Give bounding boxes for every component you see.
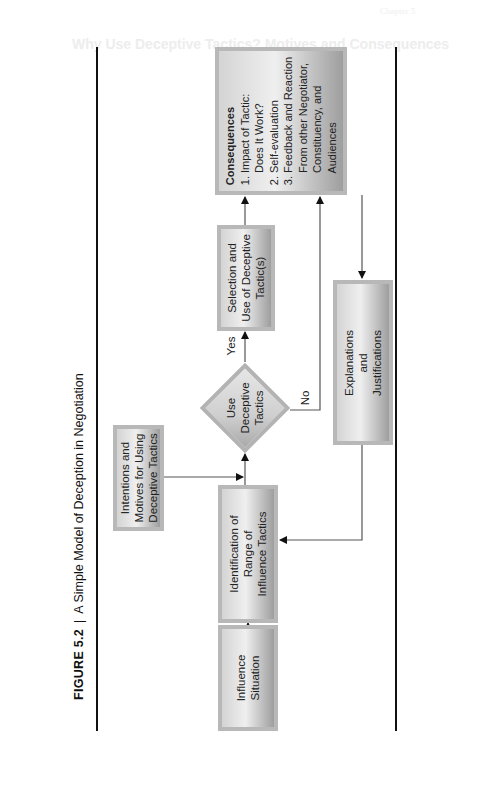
consequences-title: Consequences	[223, 57, 238, 185]
consequence-item: From other Negotiator,	[296, 57, 311, 185]
consequence-item: 1. Impact of Tactic:	[238, 57, 253, 185]
node-selection: Selection and Use of Deceptive Tactic(s)	[217, 225, 275, 331]
node-consequences: Consequences 1. Impact of Tactic: Does I…	[215, 47, 347, 195]
node-consequences-label: Consequences 1. Impact of Tactic: Does I…	[223, 57, 339, 185]
label-line: Influence Tactics	[255, 512, 269, 597]
node-influence-situation: Influence Situation	[218, 625, 278, 731]
label-line: Motives for Using	[132, 433, 146, 522]
node-explanations: Explanations and Justifications	[333, 280, 393, 445]
node-explanations-label: Explanations and Justifications	[342, 330, 384, 396]
label-line: Tactic(s)	[253, 234, 267, 322]
label-line: Tactics	[252, 382, 266, 433]
label-line: Use of Deceptive	[239, 234, 253, 322]
label-line: Intentions and	[118, 433, 132, 522]
label-line: Deceptive Tactics	[146, 433, 160, 522]
yes-label: Yes	[225, 337, 237, 356]
label-line: Identification of	[227, 512, 241, 597]
node-intentions: Intentions and Motives for Using Decepti…	[113, 425, 164, 531]
label-line: Range of	[241, 512, 255, 597]
label-line: and	[356, 330, 370, 396]
node-identification: Identification of Range of Influence Tac…	[218, 485, 278, 623]
consequence-item: Constituency, and	[310, 57, 325, 185]
node-selection-label: Selection and Use of Deceptive Tactic(s)	[225, 234, 267, 322]
label-line: Situation	[248, 655, 262, 702]
node-intentions-label: Intentions and Motives for Using Decepti…	[118, 433, 160, 522]
node-influence-situation-label: Influence Situation	[234, 655, 262, 702]
label-line: Selection and	[225, 234, 239, 322]
node-decision-label: Use Deceptive Tactics	[224, 382, 266, 433]
consequence-item: Does It Work?	[252, 57, 267, 185]
node-identification-label: Identification of Range of Influence Tac…	[227, 512, 269, 597]
consequence-item: Audiences	[325, 57, 340, 185]
label-line: Justifications	[370, 330, 384, 396]
label-line: Deceptive	[238, 382, 252, 433]
label-line: Use	[224, 382, 238, 433]
label-line: Influence	[234, 655, 248, 702]
consequence-item: 2. Self-evaluation	[267, 57, 282, 185]
label-line: Explanations	[342, 330, 356, 396]
no-label: No	[299, 391, 311, 406]
consequence-item: 3. Feedback and Reaction	[281, 57, 296, 185]
